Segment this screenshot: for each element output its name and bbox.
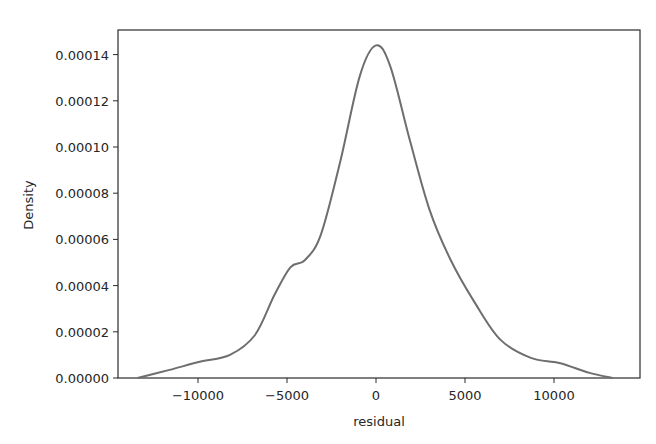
y-tick-label: 0.00014 xyxy=(55,48,109,63)
density-chart: 0.000000.000020.000040.000060.000080.000… xyxy=(0,0,656,444)
x-tick-label: 10000 xyxy=(533,388,574,403)
x-tick-label: −10000 xyxy=(172,388,224,403)
x-axis-label: residual xyxy=(353,414,405,429)
y-tick-label: 0.00008 xyxy=(55,186,109,201)
y-axis: 0.000000.000020.000040.000060.000080.000… xyxy=(55,48,118,386)
x-axis: −10000−50000500010000 xyxy=(172,378,575,403)
y-tick-label: 0.00010 xyxy=(55,140,109,155)
y-tick-label: 0.00002 xyxy=(55,325,109,340)
x-tick-label: −5000 xyxy=(265,388,309,403)
x-tick-label: 0 xyxy=(372,388,380,403)
x-tick-label: 5000 xyxy=(448,388,481,403)
y-tick-label: 0.00000 xyxy=(55,371,109,386)
plot-frame xyxy=(118,30,640,378)
y-tick-label: 0.00004 xyxy=(55,279,109,294)
y-axis-label: Density xyxy=(21,180,36,230)
y-tick-label: 0.00006 xyxy=(55,232,109,247)
y-tick-label: 0.00012 xyxy=(55,94,109,109)
kde-curve xyxy=(138,45,613,378)
